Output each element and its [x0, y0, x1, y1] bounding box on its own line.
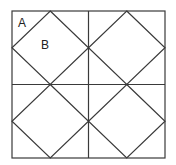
tiled-diamond-diagram: A B [0, 0, 176, 165]
diamond-bottom-left [12, 85, 89, 159]
label-a: A [18, 16, 26, 30]
diamond-bottom-right [89, 85, 166, 159]
diamond-top-right [89, 11, 166, 85]
label-b: B [41, 38, 49, 52]
